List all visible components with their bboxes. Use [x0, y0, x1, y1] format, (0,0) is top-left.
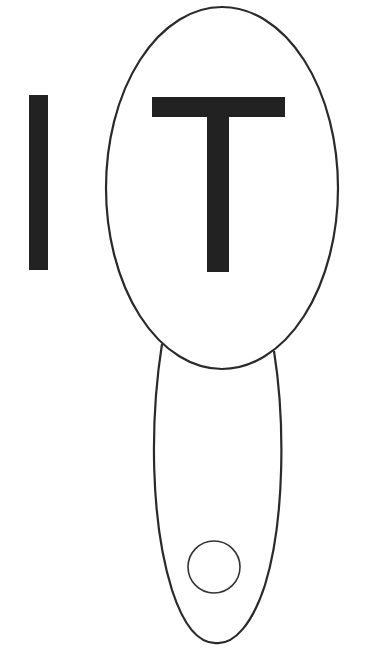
small-circle	[188, 541, 240, 593]
letter-i	[29, 95, 48, 270]
lower-elongated-shape	[154, 344, 281, 643]
diagram-canvas	[0, 0, 382, 658]
letter-t	[152, 97, 285, 272]
